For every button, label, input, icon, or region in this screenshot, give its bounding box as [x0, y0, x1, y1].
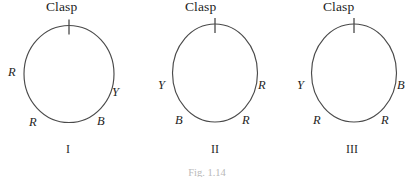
bead-label-i-2: Y — [112, 86, 119, 98]
diagram-numeral-i: I — [48, 143, 88, 155]
bead-label-iii-1: Y — [297, 79, 304, 91]
clasp-label-ii: Clasp — [185, 0, 216, 14]
necklace-oval-ii — [168, 17, 268, 127]
necklace-oval-i — [18, 18, 122, 128]
oval-path-i — [24, 26, 114, 123]
diagram-numeral-ii: II — [195, 143, 235, 155]
bead-label-ii-4: R — [242, 114, 250, 126]
bead-label-i-3: R — [29, 116, 37, 128]
diagram-i: Clasp R Y R B I — [0, 0, 138, 160]
bead-label-ii-1: Y — [158, 79, 165, 91]
figure-caption: Fig. 1.14 — [0, 167, 414, 177]
clasp-label-iii: Clasp — [323, 0, 354, 14]
diagram-ii: Clasp Y R B R II — [140, 0, 278, 160]
oval-path-ii — [173, 24, 258, 122]
bead-label-i-1: R — [8, 66, 16, 78]
bead-label-iii-2: B — [397, 79, 405, 91]
necklace-oval-iii — [308, 17, 408, 127]
diagram-numeral-iii: III — [332, 143, 372, 155]
bead-label-ii-2: R — [258, 79, 266, 91]
oval-path-iii — [312, 24, 397, 122]
bead-label-ii-3: B — [175, 114, 183, 126]
necklace-figure: Clasp R Y R B I Clasp Y R B R II C — [0, 0, 414, 177]
diagram-iii: Clasp Y B R R III — [280, 0, 414, 160]
bead-label-iii-4: R — [381, 114, 389, 126]
clasp-label-i: Clasp — [46, 0, 77, 14]
bead-label-i-4: B — [97, 115, 105, 127]
bead-label-iii-3: R — [313, 114, 321, 126]
